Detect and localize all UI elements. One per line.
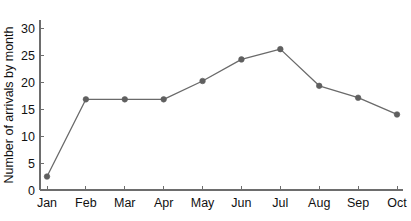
data-point <box>278 46 284 52</box>
y-axis-tick-labels: 051015202530 <box>21 22 35 198</box>
y-axis-tick-label: 15 <box>21 103 35 117</box>
series-line <box>47 49 397 176</box>
x-axis-tick-label: May <box>191 196 215 210</box>
x-axis-tick-label: Oct <box>387 196 407 210</box>
x-axis-tick-label: Aug <box>308 196 330 210</box>
y-axis-tick-label: 25 <box>21 49 35 63</box>
chart-canvas: 051015202530 JanFebMarAprMayJunJulAugSep… <box>0 0 411 221</box>
y-axis-tick-label: 30 <box>21 22 35 36</box>
x-axis-tick-label: Jul <box>272 196 288 210</box>
x-axis-tick-label: Mar <box>114 196 136 210</box>
x-axis-tick-label: Jun <box>231 196 251 210</box>
data-series <box>44 46 400 179</box>
x-axis-tick-labels: JanFebMarAprMayJunJulAugSepOct <box>37 196 407 210</box>
y-axis-tick-label: 20 <box>21 76 35 90</box>
line-chart: 051015202530 JanFebMarAprMayJunJulAugSep… <box>0 0 411 221</box>
x-axis-tick-label: Feb <box>75 196 97 210</box>
y-axis-tick-label: 5 <box>28 157 35 171</box>
y-axis-tick-label: 0 <box>28 184 35 198</box>
data-point <box>44 174 50 180</box>
data-point <box>355 95 361 101</box>
data-point <box>316 83 322 89</box>
data-point <box>161 97 167 103</box>
x-axis-tick-label: Jan <box>37 196 57 210</box>
x-axis-tick-label: Apr <box>154 196 173 210</box>
series-markers <box>44 46 400 179</box>
data-point <box>122 97 128 103</box>
data-point <box>394 112 400 118</box>
y-axis-tick-label: 10 <box>21 130 35 144</box>
data-point <box>200 78 206 84</box>
data-point <box>83 97 89 103</box>
y-axis-title: Number of arrivals by month <box>2 26 16 183</box>
chart-axes <box>40 20 403 190</box>
x-axis-tick-label: Sep <box>347 196 369 210</box>
data-point <box>239 57 245 63</box>
